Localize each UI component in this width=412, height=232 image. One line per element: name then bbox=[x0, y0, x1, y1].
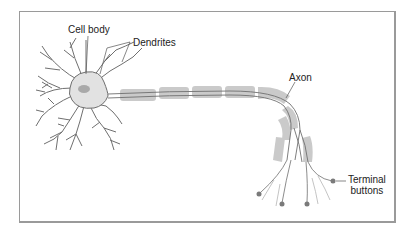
terminal-buttons-label-line1: Terminal bbox=[348, 174, 386, 185]
axon-label: Axon bbox=[289, 72, 312, 83]
myelin-sheath bbox=[120, 86, 313, 162]
dendrites-label: Dendrites bbox=[133, 37, 176, 48]
terminal-buttons-label: Terminal buttons bbox=[348, 174, 386, 196]
cell-body bbox=[69, 72, 108, 109]
axon-terminals bbox=[260, 160, 332, 206]
terminal-buttons-label-line2: buttons bbox=[348, 185, 386, 196]
terminal-buttons bbox=[257, 179, 336, 207]
neuron-diagram: Cell body Dendrites Axon Terminal button… bbox=[0, 0, 412, 232]
nucleus bbox=[78, 85, 90, 93]
neuron-illustration bbox=[0, 0, 412, 232]
cell-body-label: Cell body bbox=[68, 24, 110, 35]
